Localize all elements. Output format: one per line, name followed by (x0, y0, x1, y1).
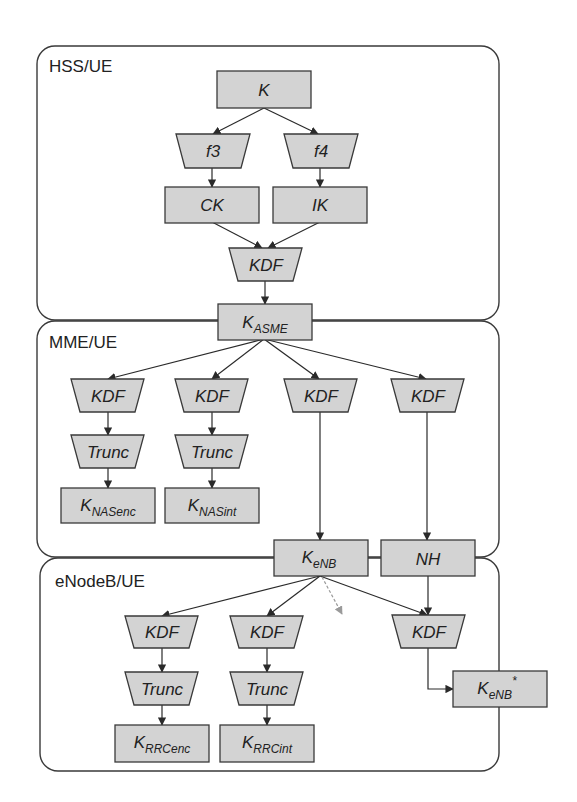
node-kdf-mme-3-label: KDF (304, 387, 340, 406)
node-kdf-enb-3-label: KDF (412, 623, 448, 642)
edge-kasme-kdf4 (264, 339, 426, 379)
node-kdf-mme-4: KDF (391, 379, 464, 412)
node-trunc-enb-1-label: Trunc (141, 680, 184, 699)
node-kdf-mme-1: KDF (71, 379, 144, 412)
edge-kasme-kdf3 (264, 339, 319, 379)
node-k-label: K (258, 81, 270, 100)
node-kdf-mme-3: KDF (284, 379, 357, 412)
node-f3: f3 (176, 134, 250, 168)
node-kdf-mme-4-label: KDF (411, 387, 447, 406)
edge-kenb-kdf1 (162, 576, 320, 616)
node-knasenc: KNASenc (61, 488, 155, 523)
node-krrcenc: KRRCenc (115, 725, 209, 762)
node-ck: CK (165, 187, 259, 223)
node-trunc-mme-2: Trunc (175, 435, 248, 468)
key-hierarchy-diagram: HSS/UE MME/UE eNodeB/UE (0, 0, 577, 802)
node-kdf-mme-2: KDF (175, 379, 248, 412)
node-ik-label: IK (312, 196, 329, 215)
node-kdf-enb-3: KDF (392, 615, 465, 648)
node-kdf-hss: KDF (229, 248, 302, 281)
node-trunc-mme-2-label: Trunc (191, 443, 234, 462)
node-kdf-enb-2: KDF (230, 616, 303, 648)
node-kenb-star: KeNB* (453, 671, 547, 707)
region-hss-ue-label: HSS/UE (49, 57, 112, 76)
node-f3-label: f3 (206, 142, 221, 161)
node-kdf-hss-label: KDF (249, 256, 285, 275)
node-trunc-enb-2-label: Trunc (246, 680, 289, 699)
edge-k-f3 (213, 108, 264, 134)
node-f4: f4 (284, 134, 358, 168)
edge-kdf3-kenbstar (428, 648, 453, 689)
edge-kasme-kdf2 (212, 339, 264, 379)
node-trunc-mme-1: Trunc (71, 435, 144, 468)
region-enodeb-ue-label: eNodeB/UE (55, 572, 145, 591)
node-trunc-enb-2: Trunc (230, 672, 303, 705)
node-ck-label: CK (200, 196, 224, 215)
edge-kasme-kdf1 (108, 339, 264, 379)
node-kdf-enb-1: KDF (125, 616, 198, 648)
node-nh: NH (381, 540, 475, 576)
edge-ik-kdf (268, 222, 320, 248)
node-kdf-mme-1-label: KDF (91, 387, 127, 406)
node-ik: IK (273, 187, 367, 223)
edge-ck-kdf (212, 222, 262, 248)
node-kdf-enb-1-label: KDF (145, 623, 181, 642)
edge-kenb-kdf2 (267, 576, 320, 616)
node-trunc-mme-1-label: Trunc (87, 443, 130, 462)
edge-k-f4 (264, 108, 318, 134)
node-f4-label: f4 (314, 142, 328, 161)
node-nh-label: NH (416, 550, 441, 569)
node-kdf-mme-2-label: KDF (195, 387, 231, 406)
node-krrcint: KRRCint (220, 725, 314, 762)
node-kasme: KASME (218, 304, 312, 340)
node-k: K (217, 71, 311, 108)
node-kdf-enb-2-label: KDF (250, 623, 286, 642)
node-trunc-enb-1: Trunc (125, 672, 198, 705)
node-kenb: KeNB (274, 540, 368, 576)
region-mme-ue-label: MME/UE (49, 333, 117, 352)
node-knasint: KNASint (165, 488, 259, 523)
edge-kenb-kdf3 (320, 576, 427, 615)
